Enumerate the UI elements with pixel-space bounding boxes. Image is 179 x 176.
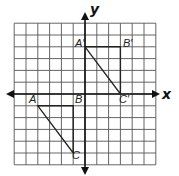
vertex-label-b: B bbox=[75, 93, 82, 105]
vertex-label-c-prime: C′ bbox=[119, 93, 130, 105]
coordinate-grid-diagram: x y A B C A′ B′ C′ bbox=[0, 0, 179, 176]
vertex-label-a-prime: A′ bbox=[74, 37, 85, 49]
y-axis-label: y bbox=[90, 1, 100, 17]
x-axis-left-arrow-icon bbox=[6, 90, 14, 98]
vertex-label-a: A bbox=[28, 93, 36, 105]
vertex-label-c: C bbox=[72, 149, 80, 161]
y-axis-down-arrow-icon bbox=[81, 167, 89, 175]
x-axis-label: x bbox=[161, 86, 172, 102]
vertex-label-b-prime: B′ bbox=[123, 37, 133, 49]
y-axis-up-arrow-icon bbox=[81, 12, 89, 20]
